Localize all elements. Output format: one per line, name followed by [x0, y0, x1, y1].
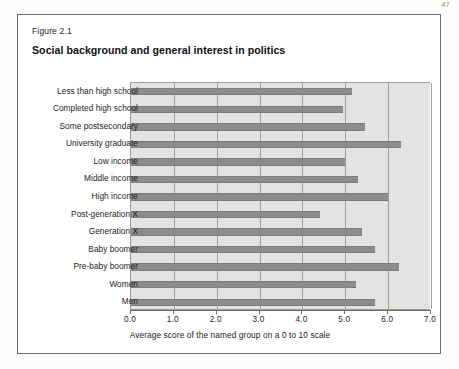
bar-row — [131, 276, 356, 294]
bar — [131, 123, 365, 130]
tick-label-6.0: 6.0 — [381, 315, 393, 324]
tick-label-4.0: 4.0 — [295, 315, 307, 324]
x-axis-line — [130, 310, 431, 311]
bar — [131, 106, 343, 113]
category-label: Less than high school — [0, 87, 138, 95]
tick-4.0 — [301, 310, 302, 314]
tick-label-1.0: 1.0 — [167, 315, 179, 324]
bars-layer — [131, 83, 430, 309]
figure-title: Social background and general interest i… — [32, 44, 285, 56]
tick-label-0.0: 0.0 — [124, 315, 136, 324]
x-axis-title: Average score of the named group on a 0 … — [18, 330, 442, 340]
category-label: Low income — [0, 157, 138, 165]
bar — [131, 228, 362, 235]
category-label: Men — [0, 297, 138, 305]
bar — [131, 176, 358, 183]
category-label: University graduate — [0, 139, 138, 147]
figure-container: Figure 2.1 Social background and general… — [17, 14, 441, 354]
bar-row — [131, 101, 343, 119]
category-label: Generation X — [0, 227, 138, 235]
bar-row — [131, 153, 345, 171]
category-label: High income — [0, 192, 138, 200]
bar-row — [131, 83, 352, 101]
bar-row — [131, 258, 399, 276]
bar — [131, 263, 399, 270]
plot-area — [130, 82, 430, 310]
bar-row — [131, 206, 320, 224]
tick-label-3.0: 3.0 — [253, 315, 265, 324]
category-label: Women — [0, 280, 138, 288]
tick-7.0 — [430, 310, 431, 314]
bar-row — [131, 293, 375, 311]
category-label: Baby boomer — [0, 245, 138, 253]
bar — [131, 299, 375, 306]
bar-row — [131, 188, 388, 206]
tick-3.0 — [259, 310, 260, 314]
bar — [131, 88, 352, 95]
category-label: Some postsecondary — [0, 122, 138, 130]
tick-5.0 — [344, 310, 345, 314]
category-label: Post-generation X — [0, 210, 138, 218]
tick-2.0 — [216, 310, 217, 314]
category-label: Middle income — [0, 174, 138, 182]
bar-row — [131, 223, 362, 241]
bar-row — [131, 118, 365, 136]
category-label: Pre-baby boomer — [0, 262, 138, 270]
tick-label-2.0: 2.0 — [210, 315, 222, 324]
tick-1.0 — [173, 310, 174, 314]
bar — [131, 193, 388, 200]
tick-label-7.0: 7.0 — [424, 315, 436, 324]
bar — [131, 246, 375, 253]
tick-6.0 — [387, 310, 388, 314]
tick-label-5.0: 5.0 — [338, 315, 350, 324]
bar-chart: Less than high schoolCompleted high scho… — [18, 69, 442, 355]
bar — [131, 158, 345, 165]
gridline-7.0 — [431, 83, 432, 309]
bar-row — [131, 171, 358, 189]
page-number: 47 — [442, 1, 450, 8]
bar-row — [131, 136, 401, 154]
figure-label: Figure 2.1 — [32, 26, 72, 36]
bar — [131, 281, 356, 288]
bar — [131, 211, 320, 218]
bar — [131, 141, 401, 148]
bar-row — [131, 241, 375, 259]
page-canvas: 47 Figure 2.1 Social background and gene… — [0, 0, 459, 369]
category-label: Completed high school — [0, 104, 138, 112]
tick-0.0 — [130, 310, 131, 314]
